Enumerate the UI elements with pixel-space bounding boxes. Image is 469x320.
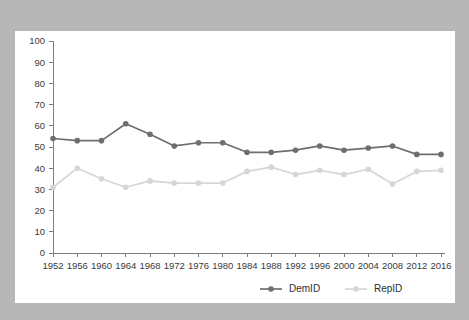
x-tick-label: 1980 — [212, 260, 233, 271]
x-tick-label: 1992 — [285, 260, 306, 271]
data-point[interactable] — [99, 176, 105, 182]
x-tick-label: 1968 — [139, 260, 160, 271]
x-tick-label: 1964 — [115, 260, 136, 271]
y-tick-label: 80 — [34, 78, 45, 89]
data-point[interactable] — [414, 169, 420, 175]
y-tick-label: 70 — [34, 99, 45, 110]
legend-swatch-marker — [268, 286, 274, 292]
data-point[interactable] — [50, 136, 56, 142]
y-tick-label: 0 — [40, 247, 45, 258]
data-point[interactable] — [74, 165, 80, 171]
data-point[interactable] — [268, 150, 274, 156]
y-tick-label: 40 — [34, 163, 45, 174]
data-point[interactable] — [293, 147, 299, 153]
data-point[interactable] — [50, 184, 56, 190]
chart-legend[interactable]: DemIDRepID — [260, 283, 402, 294]
data-point[interactable] — [220, 140, 226, 146]
data-point[interactable] — [74, 138, 80, 144]
y-tick-label: 50 — [34, 141, 45, 152]
data-point[interactable] — [196, 140, 202, 146]
data-point[interactable] — [147, 131, 153, 137]
data-point[interactable] — [244, 169, 250, 175]
legend-swatch-marker — [353, 286, 359, 292]
series-repid — [50, 164, 444, 190]
data-point[interactable] — [196, 180, 202, 186]
data-point[interactable] — [171, 180, 177, 186]
series-demid — [50, 121, 444, 157]
data-point[interactable] — [293, 172, 299, 178]
data-point[interactable] — [244, 150, 250, 156]
data-point[interactable] — [438, 152, 444, 158]
x-tick-label: 1984 — [236, 260, 257, 271]
y-tick-label: 10 — [34, 226, 45, 237]
x-tick-label: 2004 — [358, 260, 379, 271]
y-tick-label: 100 — [29, 35, 45, 46]
legend-item-repid[interactable]: RepID — [345, 283, 402, 294]
data-point[interactable] — [390, 181, 396, 187]
data-point[interactable] — [268, 164, 274, 170]
y-axis: 0102030405060708090100 — [29, 35, 53, 258]
data-point[interactable] — [123, 121, 129, 127]
data-point[interactable] — [390, 143, 396, 149]
data-point[interactable] — [341, 172, 347, 178]
legend-label: RepID — [374, 283, 402, 294]
x-tick-label: 2000 — [333, 260, 354, 271]
data-point[interactable] — [317, 143, 323, 149]
x-axis: 1952195619601964196819721976198019841988… — [42, 253, 451, 271]
x-tick-label: 2008 — [382, 260, 403, 271]
x-tick-label: 2016 — [430, 260, 451, 271]
screenshot-root: 0102030405060708090100 19521956196019641… — [0, 0, 469, 320]
data-point[interactable] — [220, 180, 226, 186]
x-tick-label: 1988 — [261, 260, 282, 271]
data-point[interactable] — [147, 178, 153, 184]
data-point[interactable] — [414, 152, 420, 158]
x-tick-label: 1952 — [42, 260, 63, 271]
data-point[interactable] — [171, 143, 177, 149]
x-tick-label: 1996 — [309, 260, 330, 271]
y-tick-label: 90 — [34, 57, 45, 68]
x-tick-label: 1956 — [67, 260, 88, 271]
y-tick-label: 20 — [34, 205, 45, 216]
legend-item-demid[interactable]: DemID — [260, 283, 320, 294]
data-point[interactable] — [123, 184, 129, 190]
x-tick-label: 2012 — [406, 260, 427, 271]
x-tick-label: 1960 — [91, 260, 112, 271]
x-tick-label: 1976 — [188, 260, 209, 271]
chart-panel: 0102030405060708090100 19521956196019641… — [15, 31, 455, 303]
data-point[interactable] — [365, 145, 371, 151]
legend-label: DemID — [289, 283, 320, 294]
x-tick-label: 1972 — [164, 260, 185, 271]
y-tick-label: 60 — [34, 120, 45, 131]
line-chart[interactable]: 0102030405060708090100 19521956196019641… — [15, 31, 455, 303]
data-point[interactable] — [99, 138, 105, 144]
y-tick-label: 30 — [34, 184, 45, 195]
data-point[interactable] — [341, 147, 347, 153]
data-point[interactable] — [438, 168, 444, 174]
data-point[interactable] — [365, 166, 371, 172]
series-layer — [50, 121, 444, 190]
data-point[interactable] — [317, 168, 323, 174]
